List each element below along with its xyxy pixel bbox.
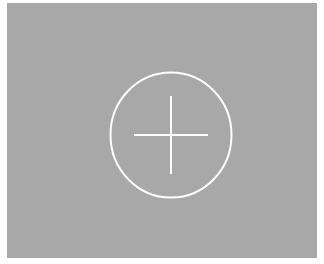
plus-circle-icon: [109, 71, 233, 199]
add-button[interactable]: [109, 71, 233, 199]
placeholder-panel: [7, 3, 317, 258]
